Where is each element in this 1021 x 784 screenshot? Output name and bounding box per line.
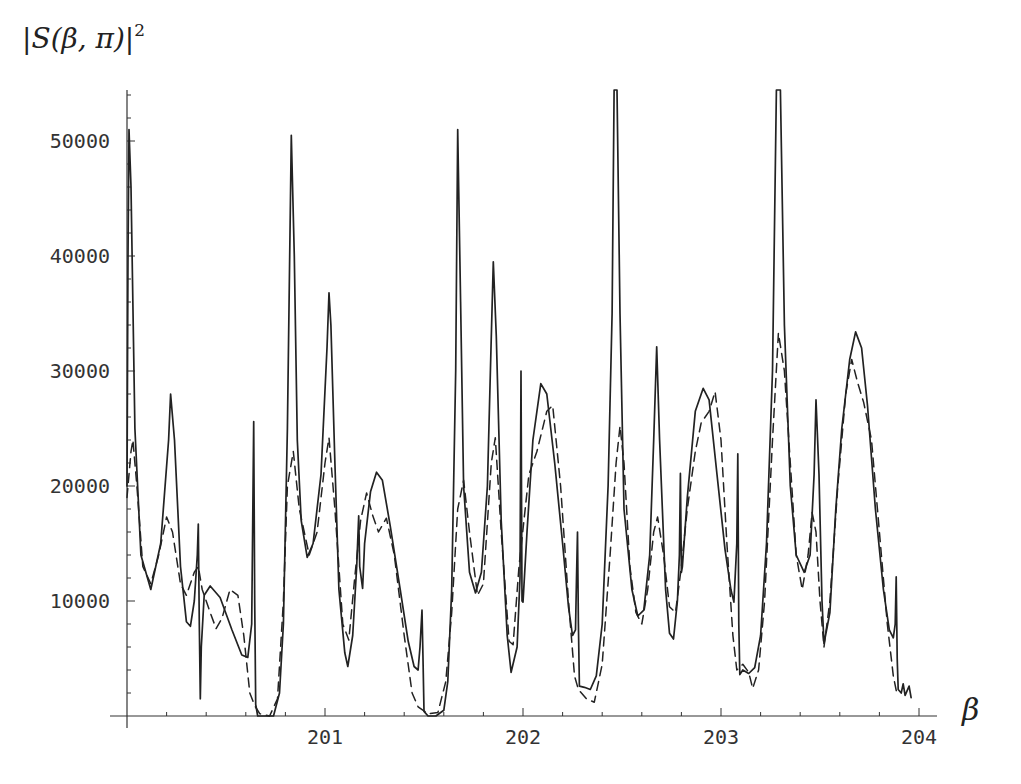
dashed-series-line — [127, 333, 897, 716]
y-tick-label: 40000 — [50, 244, 110, 268]
line-chart: 2012022032041000020000300004000050000 — [0, 0, 1021, 784]
y-tick-label: 20000 — [50, 474, 110, 498]
x-tick-label: 202 — [505, 725, 541, 749]
x-tick-label: 204 — [901, 725, 937, 749]
x-tick-label: 203 — [703, 725, 739, 749]
solid-series-line — [127, 90, 911, 716]
y-tick-label: 10000 — [50, 589, 110, 613]
axes — [110, 90, 937, 728]
y-tick-label: 30000 — [50, 359, 110, 383]
series-group — [127, 90, 911, 716]
x-tick-label: 201 — [307, 725, 343, 749]
y-tick-label: 50000 — [50, 129, 110, 153]
tick-labels: 2012022032041000020000300004000050000 — [50, 129, 937, 749]
